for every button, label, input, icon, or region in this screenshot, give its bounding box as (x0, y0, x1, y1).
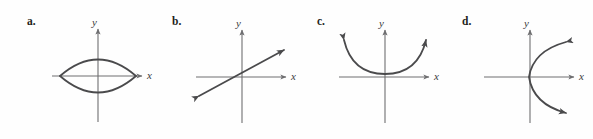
panel-c-x-axis-label: x (434, 71, 439, 82)
panel-a-graph (52, 29, 142, 122)
panel-b-graph (196, 30, 286, 123)
panel-d-x-axis-label: x (579, 71, 584, 82)
panel-d-y-axis-label: y (524, 18, 529, 29)
panel-b-label: b. (172, 16, 181, 28)
graphs-svg (0, 0, 593, 139)
panel-b-x-axis-label: x (291, 71, 296, 82)
panel-c-curve (344, 40, 426, 74)
panel-c-label: c. (317, 16, 325, 28)
panel-a-y-axis-label: y (92, 17, 97, 28)
panel-b-y-axis-label: y (236, 18, 241, 29)
figure-container: a. y x b. y x c. y x d. y x (0, 0, 593, 139)
panel-c-y-axis-label: y (379, 18, 384, 29)
panel-a-curve-lower (60, 76, 136, 93)
panel-d-graph (484, 30, 574, 123)
panel-a-x-axis-label: x (147, 70, 152, 81)
panel-a-curve-upper (60, 60, 136, 77)
panel-d-curve (529, 42, 566, 113)
panel-d-label: d. (462, 16, 471, 28)
panel-a-label: a. (27, 16, 36, 28)
panel-c-graph (339, 30, 429, 123)
panel-b-curve (199, 50, 284, 96)
